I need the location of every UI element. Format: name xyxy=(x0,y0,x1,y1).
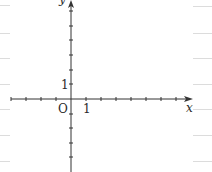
origin-label: O xyxy=(58,102,68,116)
x-unit-label: 1 xyxy=(83,102,91,116)
right-rule-lines xyxy=(193,7,212,162)
y-axis xyxy=(69,3,73,172)
left-rule-lines xyxy=(0,6,10,162)
y-unit-label: 1 xyxy=(61,78,69,92)
x-axis xyxy=(11,97,190,101)
y-axis-label: y xyxy=(58,0,66,6)
coordinate-plane: y x O 1 1 xyxy=(0,0,212,172)
x-axis-label: x xyxy=(186,101,193,115)
